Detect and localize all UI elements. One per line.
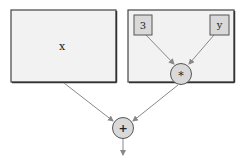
- node-const-3: 3: [134, 15, 152, 35]
- node-const-label: 3: [140, 20, 146, 31]
- node-var-y: y: [210, 15, 229, 35]
- left-box-label: x: [59, 40, 66, 53]
- node-var-label: y: [216, 19, 223, 30]
- diagram-svg: x 3 y * +: [0, 0, 247, 165]
- plus-operator-label: +: [118, 122, 127, 135]
- expression-diagram: x 3 y * +: [0, 0, 247, 165]
- edge-mult-to-plus: [133, 85, 178, 121]
- left-box: x: [11, 10, 117, 83]
- node-multiply: *: [171, 64, 192, 85]
- multiply-operator-label: *: [178, 69, 184, 82]
- node-plus: +: [113, 118, 134, 139]
- edge-x-to-plus: [64, 83, 113, 121]
